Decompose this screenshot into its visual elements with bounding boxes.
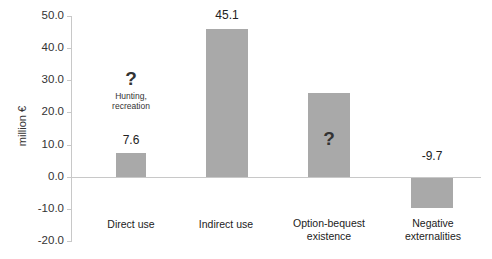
bar-direct-use [116,153,146,177]
y-tick-mark [67,80,71,81]
y-tick-label: 30.0 [14,73,64,85]
category-label-line: Direct use [81,218,181,231]
note-hunting: Hunting, [96,91,166,101]
x-axis-line [71,177,481,178]
y-tick-label: 0.0 [14,170,64,182]
y-tick-mark [67,48,71,49]
category-label-negative-externalities: Negative externalities [383,217,483,243]
category-label-line: Indirect use [176,218,276,231]
category-label-indirect-use: Indirect use [176,218,276,231]
y-tick-mark [67,209,71,210]
y-tick-mark [67,241,71,242]
value-label-direct-use: 7.6 [101,133,161,147]
question-mark-option-bequest: ? [309,128,349,150]
y-tick-label: -20.0 [14,234,64,246]
note-recreation: recreation [96,101,166,111]
category-label-line: Option-bequest [279,217,379,230]
question-mark-direct-use: ? [111,68,151,90]
y-tick-label: 50.0 [14,9,64,21]
bar-indirect-use [206,29,248,177]
y-tick-mark [67,145,71,146]
y-axis-title: million € [16,96,28,156]
category-label-line: existence [279,230,379,243]
category-label-line: externalities [383,230,483,243]
category-label-option-bequest: Option-bequest existence [279,217,379,243]
category-label-line: Negative [383,217,483,230]
category-label-direct-use: Direct use [81,218,181,231]
y-tick-label: -10.0 [14,202,64,214]
y-tick-mark [67,112,71,113]
bar-negative-externalities [411,177,453,208]
value-label-negative-externalities: -9.7 [402,149,462,163]
y-tick-mark [67,16,71,17]
value-label-indirect-use: 45.1 [197,8,257,22]
y-tick-label: 40.0 [14,41,64,53]
y-axis-line [71,16,72,242]
